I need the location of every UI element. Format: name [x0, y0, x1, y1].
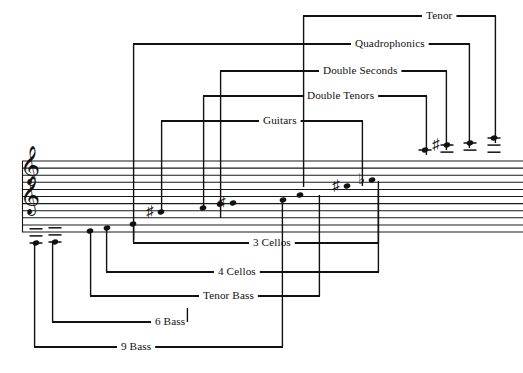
label-group: TenorQuadrophonicsDouble SecondsDouble T…	[121, 9, 453, 352]
accidental-sign: ♯	[218, 194, 226, 210]
note-guitars-high: ♯	[332, 177, 351, 193]
note-tenorbass-hi	[296, 192, 304, 199]
accidental-sign: ♯	[432, 136, 440, 152]
bracket-label-tenor: Tenor	[426, 9, 453, 21]
bracket-label-quadrophonics: Quadrophonics	[355, 37, 425, 49]
bracket-label-tenor-bass: Tenor Bass	[203, 289, 254, 301]
bracket-group	[34, 16, 496, 347]
bracket-guitars	[161, 121, 363, 212]
accidental-sign: ♯	[146, 203, 154, 219]
accidental-sign: ♭	[358, 171, 365, 187]
range-chart: 𝄞𝄞 ♯♯♯♭♯ TenorQuadrophonicsDouble Second…	[0, 0, 523, 373]
bracket-label-nine-bass: 9 Bass	[121, 340, 151, 352]
note-group: ♯♯♯♭♯	[30, 135, 501, 247]
notehead	[343, 183, 351, 190]
note-tenor-high	[488, 135, 501, 153]
bracket-six-bass	[52, 243, 188, 322]
notehead	[490, 135, 498, 142]
bracket-double-tenors	[203, 96, 427, 208]
accidental-sign: ♯	[332, 177, 340, 193]
bracket-label-three-cellos: 3 Cellos	[253, 236, 291, 248]
notation-canvas: 𝄞𝄞 ♯♯♯♭♯ TenorQuadrophonicsDouble Second…	[0, 0, 523, 373]
note-9bass-low	[30, 229, 43, 247]
bracket-label-six-bass: 6 Bass	[155, 315, 185, 327]
note-dbltenors-hi: ♯	[432, 136, 454, 153]
notehead	[32, 240, 40, 247]
note-6bass-low	[49, 228, 62, 246]
note-guitars-top	[419, 147, 432, 154]
notehead	[229, 200, 237, 207]
treble-clef-lower: 𝄞	[20, 174, 40, 216]
bracket-label-double-seconds: Double Seconds	[323, 64, 397, 76]
bracket-label-double-tenors: Double Tenors	[307, 89, 374, 101]
staff: 𝄞𝄞	[20, 144, 523, 232]
notehead	[421, 147, 429, 154]
notehead	[296, 192, 304, 199]
bracket-label-four-cellos: 4 Cellos	[218, 265, 256, 277]
bracket-three-cellos	[133, 181, 379, 243]
bracket-label-guitars: Guitars	[263, 114, 297, 126]
note-tenor-low: ♭	[358, 171, 377, 187]
